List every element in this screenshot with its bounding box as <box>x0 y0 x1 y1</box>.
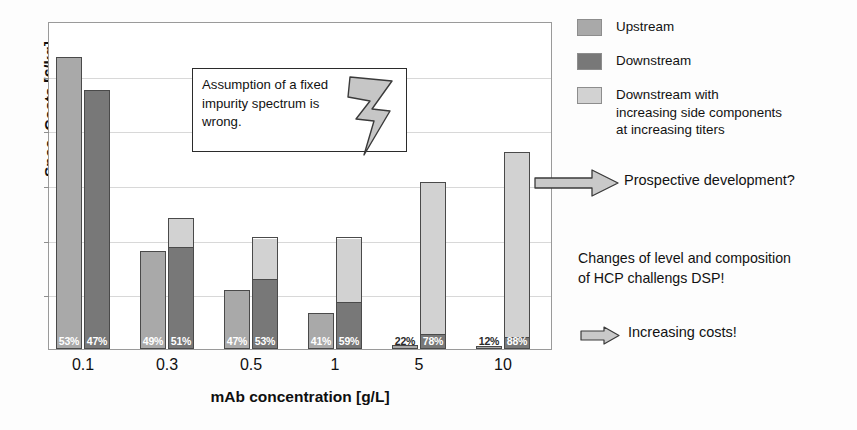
hcp-changes-line-2: of HCP challengs DSP! <box>578 268 854 288</box>
segment-downstream-side-components <box>169 219 193 248</box>
data-label-upstream-0.1: 53% <box>56 335 82 347</box>
legend-swatch-downstream-side-components <box>577 87 602 104</box>
data-label-downstream-1: 59% <box>336 335 362 347</box>
callout-line-3: wrong. <box>202 113 354 132</box>
bar-upstream-0.1 <box>56 57 82 349</box>
x-tick-label-1: 1 <box>331 356 340 374</box>
segment-upstream <box>477 347 501 348</box>
data-label-upstream-10: 12% <box>476 335 502 347</box>
x-tick-label-5: 5 <box>415 356 424 374</box>
x-tick-label-0.1: 0.1 <box>72 356 94 374</box>
legend-item-upstream: Upstream <box>577 18 849 36</box>
prospective-arrow-icon <box>534 168 620 198</box>
data-label-downstream-5: 78% <box>420 335 446 347</box>
callout-box: Assumption of a fixed impurity spectrum … <box>192 68 407 152</box>
legend-label-upstream: Upstream <box>616 18 674 36</box>
legend-item-downstream-side-components: Downstream with increasing side componen… <box>577 86 849 139</box>
data-label-upstream-1: 41% <box>308 335 334 347</box>
legend: Upstream Downstream Downstream with incr… <box>577 18 849 155</box>
bar-downstream-0.5 <box>252 237 278 349</box>
bar-downstream-5 <box>420 182 446 349</box>
x-axis-title: mAb concentration [g/L] <box>48 388 552 406</box>
legend-label-line-2: increasing side components <box>616 104 782 122</box>
data-label-downstream-10: 88% <box>504 335 530 347</box>
bar-downstream-0.3 <box>168 218 194 349</box>
hcp-changes-note: Changes of level and composition of HCP … <box>578 248 854 288</box>
segment-downstream-side-components <box>253 239 277 281</box>
segment-downstream-side-components <box>505 153 529 338</box>
legend-swatch-downstream <box>577 53 602 70</box>
bar-downstream-0.1 <box>84 90 110 349</box>
increasing-costs-arrow-icon <box>580 326 620 345</box>
segment-downstream <box>85 91 109 348</box>
legend-label-downstream-side-components: Downstream with increasing side componen… <box>616 86 782 139</box>
legend-label-downstream: Downstream <box>616 52 691 70</box>
callout-text: Assumption of a fixed impurity spectrum … <box>202 76 354 132</box>
x-tick-label-0.3: 0.3 <box>156 356 178 374</box>
data-label-downstream-0.3: 51% <box>168 335 194 347</box>
x-tick-label-10: 10 <box>494 356 512 374</box>
data-label-upstream-0.5: 47% <box>224 335 250 347</box>
plot-area: 53%47%49%51%47%53%41%59%22%78%12%88% Ass… <box>48 22 552 350</box>
segment-upstream <box>141 252 165 348</box>
data-label-downstream-0.1: 47% <box>84 335 110 347</box>
segment-downstream-side-components <box>421 183 445 335</box>
prospective-development-text: Prospective development? <box>624 172 795 188</box>
data-label-upstream-5: 22% <box>392 335 418 347</box>
callout-line-1: Assumption of a fixed <box>202 76 354 95</box>
x-axis-tick-labels: 0.10.30.51510 <box>48 356 552 382</box>
hcp-changes-line-1: Changes of level and composition <box>578 248 854 268</box>
segment-downstream <box>169 248 193 348</box>
legend-label-line-1: Downstream with <box>616 86 782 104</box>
segment-downstream-side-components <box>337 239 361 303</box>
bar-downstream-10 <box>504 152 530 349</box>
chart-root: Spec. Costs [€/kg] 53%47%49%51%47%53%41%… <box>0 0 857 430</box>
legend-swatch-upstream <box>577 19 602 36</box>
legend-label-line-3: at increasing titers <box>616 121 782 139</box>
callout-line-2: impurity spectrum is <box>202 95 354 114</box>
x-tick-label-0.5: 0.5 <box>240 356 262 374</box>
segment-upstream <box>57 58 81 348</box>
data-label-downstream-0.5: 53% <box>252 335 278 347</box>
legend-item-downstream: Downstream <box>577 52 849 70</box>
bar-downstream-1 <box>336 237 362 349</box>
data-label-upstream-0.3: 49% <box>140 335 166 347</box>
increasing-costs-text: Increasing costs! <box>628 324 737 340</box>
